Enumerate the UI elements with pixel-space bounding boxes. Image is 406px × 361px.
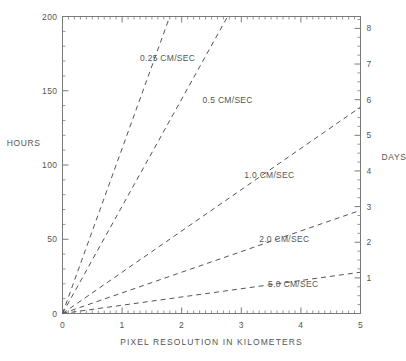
x-axis-tick-label: 2	[179, 321, 184, 330]
y-axis-title: HOURS	[7, 138, 41, 147]
y2-axis-tick-label: 7	[367, 60, 372, 69]
y2-axis-tick-label: 5	[367, 131, 372, 140]
curve-label-2: 0.5 CM/SEC	[203, 95, 253, 104]
y-axis-tick-label: 50	[47, 235, 57, 244]
series-line-4	[63, 210, 361, 313]
data-series-group	[63, 0, 361, 314]
y-axis-tick-label: 100	[42, 161, 57, 170]
y2-axis-tick-label: 8	[367, 24, 372, 33]
curve-label-4: 2.0 CM/SEC	[259, 235, 309, 244]
x-axis-tick-label: 1	[120, 321, 125, 330]
curve-label-5: 5.0 CM/SEC	[268, 280, 318, 289]
plot-frame	[63, 17, 361, 314]
curve-label-3: 1.0 CM/SEC	[244, 171, 294, 180]
series-line-1	[63, 0, 361, 314]
y2-axis-tick-label: 4	[367, 167, 372, 176]
curve-label-1: 0.25 CM/SEC	[140, 54, 195, 63]
x-axis-title: PIXEL RESOLUTION IN KILOMETERS	[120, 338, 302, 347]
series-line-2	[63, 0, 361, 314]
y2-axis-tick-label: 3	[367, 202, 372, 211]
y-axis-tick-label: 150	[42, 87, 57, 96]
y2-axis-tick-label: 2	[367, 238, 372, 247]
x-axis-tick-label: 0	[60, 321, 65, 330]
y-axis-tick-label: 0	[52, 309, 57, 318]
y-axis-tick-label: 200	[42, 12, 57, 21]
y2-axis-tick-label: 6	[367, 95, 372, 104]
x-axis-tick-label: 4	[298, 321, 303, 330]
x-axis-tick-label: 5	[358, 321, 363, 330]
y2-axis-title: DAYS	[382, 152, 406, 161]
y2-axis-tick-label: 1	[367, 274, 372, 283]
x-axis-tick-label: 3	[239, 321, 244, 330]
